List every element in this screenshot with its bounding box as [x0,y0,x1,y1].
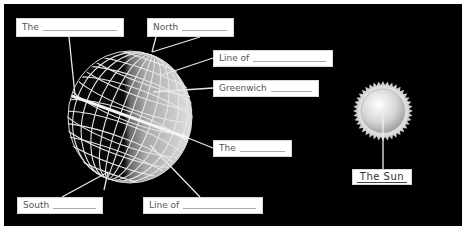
label-text: Line of [149,201,179,210]
answer-blank[interactable] [271,85,312,92]
label-text: The [219,144,236,153]
label-the-equator[interactable]: The [213,140,292,157]
answer-blank[interactable] [240,145,285,152]
label-text: Line of [219,54,249,63]
sun-label-text: The Sun [357,171,407,183]
label-north-pole[interactable]: North [147,18,234,37]
label-south-pole[interactable]: South [17,197,103,214]
answer-blank[interactable] [53,202,96,209]
answer-blank[interactable] [182,24,227,31]
answer-blank[interactable] [253,55,326,62]
label-greenwich-meridian[interactable]: Greenwich [213,80,319,97]
sun [353,81,413,169]
answer-blank[interactable] [183,202,256,209]
answer-blank[interactable] [43,24,117,31]
label-the-axis[interactable]: The [16,18,124,37]
label-the-sun: The Sun [352,169,412,185]
label-text: South [23,201,49,210]
label-text: The [22,23,39,32]
label-line-of-latitude[interactable]: Line of [213,50,333,67]
label-text: North [153,23,178,32]
globe [28,17,231,217]
label-line-of-longitude[interactable]: Line of [143,197,263,214]
label-text: Greenwich [219,84,267,93]
